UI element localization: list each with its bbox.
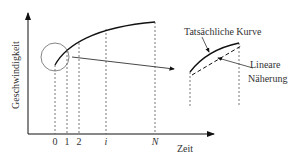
linear-approx-label-1: Lineare [250,59,281,70]
linear-approx-label-2: Näherung [248,73,287,84]
x-tick-N: N [151,136,160,147]
x-tick-0: 0 [53,136,58,147]
y-axis-label: Geschwindigkeit [10,41,21,109]
x-tick-2: 2 [77,136,82,147]
velocity-diagram: Geschwindigkeit Zeit 0 1 2 i N Tatsächli… [0,0,299,157]
inset-detail [190,37,253,107]
velocity-curve [55,22,155,65]
actual-curve-pointer [202,37,209,52]
inset-actual-curve [190,43,239,72]
actual-curve-label: Tatsächliche Kurve [184,26,262,37]
time-guides [55,22,155,134]
linear-pointer [218,58,253,68]
zoom-connector-arrow [72,57,174,69]
x-axis-label: Zeit [177,143,193,154]
x-tick-i: i [105,136,108,147]
x-tick-1: 1 [65,136,70,147]
